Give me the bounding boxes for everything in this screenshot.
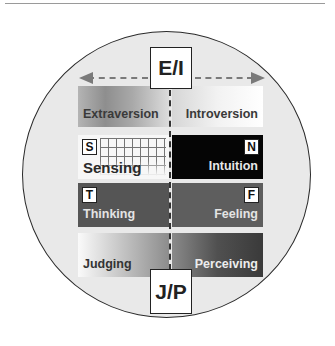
top-rule (5, 3, 325, 4)
label-extraversion: Extraversion (83, 107, 159, 121)
panel-feeling: F Feeling (172, 183, 263, 227)
letter-badge-f: F (244, 187, 259, 203)
arrow-right-icon (251, 72, 265, 84)
letter-badge-s: S (82, 139, 97, 155)
letter-badge-t: T (82, 187, 97, 203)
label-perceiving: Perceiving (195, 257, 258, 271)
label-introversion: Introversion (186, 107, 258, 121)
panel-thinking: T Thinking (78, 183, 169, 227)
center-divider (169, 90, 171, 270)
panel-introversion: Introversion (172, 86, 263, 127)
panel-sensing: S Sensing (78, 135, 169, 179)
panel-intuition: N Intuition (172, 135, 263, 179)
letter-badge-n: N (244, 139, 259, 155)
label-judging: Judging (83, 257, 132, 271)
arrow-right-line (195, 77, 253, 79)
panel-extraversion: Extraversion (78, 86, 169, 127)
arrow-left-line (88, 77, 148, 79)
label-feeling: Feeling (214, 207, 258, 221)
axis-box-jp: J/P (150, 269, 192, 314)
label-sensing: Sensing (83, 159, 141, 176)
label-intuition: Intuition (209, 159, 258, 173)
label-thinking: Thinking (83, 207, 135, 221)
axis-box-ei: E/I (150, 47, 192, 89)
